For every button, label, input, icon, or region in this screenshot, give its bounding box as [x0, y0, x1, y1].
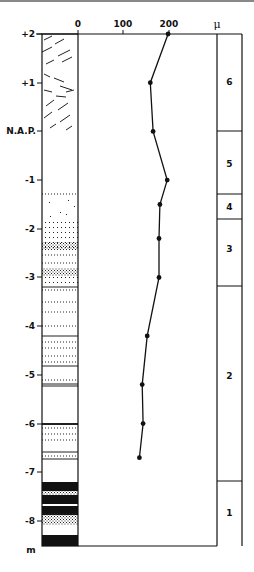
y-tick-minus1: -1 [25, 175, 35, 185]
y-tick-minus7: -7 [25, 467, 35, 477]
lithology-column [42, 34, 78, 546]
data-point [157, 236, 162, 241]
unit-column [217, 131, 242, 481]
data-point [140, 382, 145, 387]
y-tick-minus6: -6 [25, 419, 35, 429]
y-unit-label: m [26, 545, 35, 555]
data-point [165, 178, 170, 183]
grain-size-series [137, 32, 171, 461]
y-tick-minus2: -2 [25, 224, 35, 234]
y-tick-minus8: -8 [25, 516, 35, 526]
cross-bedding-pattern [42, 36, 74, 130]
x-unit-label: μ [213, 18, 220, 31]
data-point [145, 334, 150, 339]
unit-6-label: 6 [226, 77, 232, 87]
y-tick-nap: N.A.P. [6, 126, 36, 136]
data-point [157, 275, 162, 280]
y-tick-plus2: +2 [21, 29, 35, 39]
y-tick-minus4: -4 [25, 321, 35, 331]
data-point [141, 421, 146, 426]
unit-2-label: 2 [226, 371, 232, 381]
unit-4-label: 4 [226, 202, 232, 212]
unit-1-label: 1 [226, 508, 232, 518]
x-tick-100: 100 [114, 19, 133, 29]
unit-3-label: 3 [226, 244, 232, 254]
data-point [158, 202, 163, 207]
y-tick-plus1: +1 [21, 78, 35, 88]
y-tick-minus3: -3 [25, 272, 35, 282]
data-point [166, 32, 171, 37]
data-point [137, 455, 142, 460]
unit-5-label: 5 [226, 159, 232, 169]
data-point [151, 129, 156, 134]
y-tick-minus5: -5 [25, 370, 35, 380]
data-point [148, 80, 153, 85]
y-axis-ticks [37, 34, 42, 521]
x-tick-0: 0 [75, 19, 81, 29]
x-tick-200: 200 [160, 19, 179, 29]
grain-size-profile-chart: 0 100 200 μ +2 +1 N.A.P. -1 -2 -3 -4 -5 … [0, 0, 254, 572]
